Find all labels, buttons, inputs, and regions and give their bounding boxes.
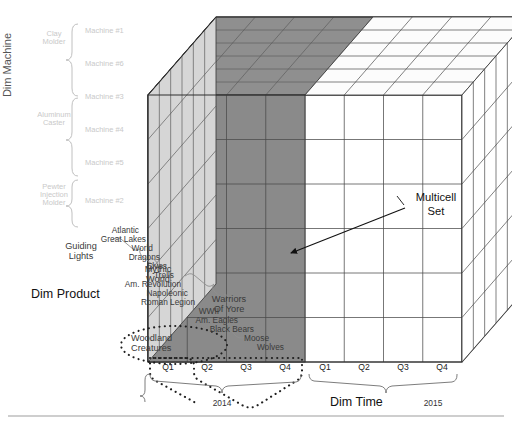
figure-canvas: Dim Machine Dim Product Dim Time Clay Mo…: [0, 0, 512, 425]
machine-item-4: Machine #5: [85, 159, 124, 167]
product-group-woodland-creatures: Woodland Creatures: [131, 333, 219, 354]
machine-item-0: Machine #1: [85, 27, 124, 35]
machine-group-line3: Molder: [43, 198, 66, 207]
multicell-callout-line1: Multicell: [416, 191, 456, 203]
dim-product-axis-label: Dim Product: [31, 288, 100, 301]
quarter-tick-2014-q4[interactable]: Q4: [268, 362, 302, 372]
year-label-2015: 2015: [413, 398, 453, 408]
machine-group-aluminum-caster: Aluminum Caster: [27, 111, 81, 127]
machine-item-2: Machine #3: [85, 93, 124, 101]
machine-group-pewter-injection-molder: Pewter Injection Molder: [27, 183, 81, 207]
year-label-2014: 2014: [202, 398, 242, 408]
product-group-line2: Creatures: [131, 343, 171, 353]
multicell-callout-line2: Set: [428, 205, 445, 217]
product-group-line1: Guiding: [65, 241, 97, 251]
product-group-line1: Warriors: [212, 294, 246, 304]
product-item-13: Wolves: [257, 342, 284, 352]
multicell-set-callout: Multicell Set: [405, 190, 467, 218]
machine-group-clay-molder: Clay Molder: [27, 30, 81, 46]
product-group-line1: Woodland: [131, 333, 172, 343]
machine-item-3: Machine #4: [85, 126, 124, 134]
product-group-guiding-lights: Guiding Lights: [56, 241, 106, 262]
dim-time-axis-label: Dim Time: [330, 396, 383, 409]
quarter-tick-2014-q1[interactable]: Q1: [151, 362, 185, 372]
quarter-tick-2015-q1[interactable]: Q1: [308, 362, 342, 372]
quarter-tick-2014-q2[interactable]: Q2: [190, 362, 224, 372]
dim-machine-axis-label: Dim Machine: [2, 10, 14, 120]
product-group-line2: Lights: [69, 251, 94, 261]
machine-item-1: Machine #6: [85, 60, 124, 68]
machine-group-line2: Molder: [43, 37, 66, 46]
quarter-braces: [140, 374, 457, 402]
quarter-tick-2015-q2[interactable]: Q2: [347, 362, 381, 372]
quarter-tick-2015-q4[interactable]: Q4: [425, 362, 459, 372]
machine-item-5: Machine #2: [85, 197, 124, 205]
machine-group-line2: Caster: [43, 118, 65, 127]
quarter-tick-2014-q3[interactable]: Q3: [229, 362, 263, 372]
product-item-8: Roman Legion: [141, 297, 195, 307]
quarter-tick-2015-q3[interactable]: Q3: [386, 362, 420, 372]
